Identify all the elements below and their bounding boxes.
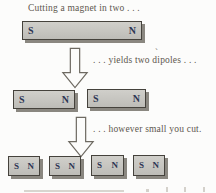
north-pole-label: N (112, 161, 119, 170)
north-pole-label: N (153, 161, 160, 170)
south-pole-label: S (28, 26, 34, 36)
cropped-text-fragment (24, 190, 124, 192)
cropped-text-fragment (184, 187, 186, 192)
caption-however-small: . . . however small you cut. (93, 124, 202, 135)
south-pole-label: S (97, 161, 102, 170)
down-arrow-icon (61, 47, 89, 89)
magnet-small-1: S N (8, 156, 40, 176)
figure-cutting-a-magnet: Cutting a magnet in two . . . S N ` . . … (0, 0, 216, 193)
magnet-small-4: S N (133, 155, 165, 176)
magnet-medium-left: S N (13, 90, 75, 109)
north-pole-label: N (28, 162, 35, 171)
magnet-small-2: S N (49, 156, 81, 176)
magnet-medium-right: S N (87, 89, 146, 108)
north-pole-label: N (69, 162, 76, 171)
north-pole-label: N (62, 95, 69, 105)
south-pole-label: S (55, 162, 60, 171)
south-pole-label: S (139, 161, 144, 170)
north-pole-label: N (129, 26, 136, 36)
figure-title: Cutting a magnet in two . . . (28, 3, 140, 14)
down-arrow-icon (67, 116, 95, 158)
magnet-small-3: S N (91, 155, 124, 176)
south-pole-label: S (93, 94, 99, 104)
south-pole-label: S (14, 162, 19, 171)
cropped-text-fragment (166, 187, 168, 192)
south-pole-label: S (19, 95, 25, 105)
cropped-text-fragment (203, 187, 205, 192)
caption-yields-two-dipoles: . . . yields two dipoles . . . (93, 55, 197, 66)
cropped-text-fragment (146, 189, 149, 192)
north-pole-label: N (133, 94, 140, 104)
magnet-large: S N (22, 21, 142, 40)
